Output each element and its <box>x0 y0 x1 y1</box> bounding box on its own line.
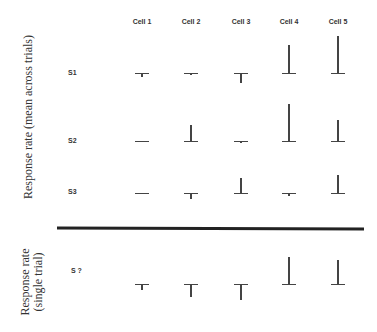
decrease-stem <box>141 284 143 290</box>
baseline-tick <box>282 284 296 285</box>
baseline-tick <box>331 193 345 194</box>
increase-stem <box>288 104 290 141</box>
column-header-cell-5: Cell 5 <box>318 18 358 25</box>
decrease-stem <box>240 73 242 83</box>
increase-stem <box>288 257 290 284</box>
baseline-tick <box>135 141 149 142</box>
baseline-tick <box>135 193 149 194</box>
y-axis-label-single-line2: (single trial) <box>32 247 45 317</box>
row-label-s2: S2 <box>68 137 77 144</box>
y-axis-label-single: Response rate (single trial) <box>19 247 47 317</box>
baseline-tick <box>331 141 345 142</box>
decrease-stem <box>240 141 242 143</box>
column-header-cell-4: Cell 4 <box>269 18 309 25</box>
increase-stem <box>190 125 192 141</box>
row-label-s1: S1 <box>68 69 77 76</box>
increase-stem <box>337 260 339 284</box>
y-axis-label-mean: Response rate (mean across trials) <box>22 22 36 212</box>
increase-stem <box>288 45 290 73</box>
decrease-stem <box>141 73 143 77</box>
increase-stem <box>337 120 339 141</box>
baseline-tick <box>234 193 248 194</box>
baseline-tick <box>331 73 345 74</box>
increase-stem <box>337 36 339 73</box>
increase-stem <box>337 175 339 193</box>
decrease-stem <box>190 284 192 297</box>
baseline-tick <box>282 73 296 74</box>
row-label-s3: S3 <box>68 188 77 195</box>
baseline-tick <box>282 141 296 142</box>
decrease-stem <box>190 193 192 199</box>
decrease-stem <box>240 284 242 300</box>
decrease-stem <box>288 193 290 196</box>
column-header-cell-1: Cell 1 <box>122 18 162 25</box>
section-divider <box>57 226 364 230</box>
baseline-tick <box>331 284 345 285</box>
column-header-cell-2: Cell 2 <box>171 18 211 25</box>
column-header-cell-3: Cell 3 <box>221 18 261 25</box>
increase-stem <box>240 178 242 193</box>
row-label-s-unknown: S ? <box>71 267 82 274</box>
decrease-stem <box>190 73 192 75</box>
baseline-tick <box>184 141 198 142</box>
